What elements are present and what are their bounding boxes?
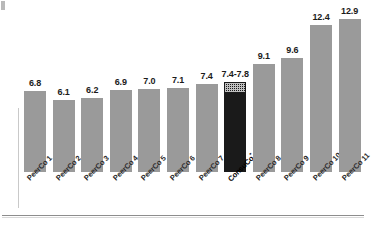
bar-group: 9.1 [253,0,275,172]
bar-group: 9.6 [281,0,303,172]
bar-peerco[interactable] [310,25,332,172]
bar-group: 7.0 [138,0,160,172]
bar-group: 6.9 [110,0,132,172]
bar-peerco[interactable] [339,19,361,172]
bar-group: 12.9 [339,0,361,172]
bar-group: 7.4-7.8 [224,0,246,172]
bar-peerco[interactable] [281,58,303,172]
bar-group: 12.4 [310,0,332,172]
range-stipple-cap [225,83,245,92]
bar-group: 6.8 [24,0,46,172]
bar-value-label: 12.9 [327,6,373,16]
bar-chart-plot-area: 6.8PeerCo 16.1PeerCo 26.2PeerCo 36.9Peer… [19,0,363,172]
bar-value-label: 9.6 [269,45,315,55]
bar-group: 7.4 [196,0,218,172]
bar-group: 7.1 [167,0,189,172]
plot-bottom-rule-secondary [2,217,364,218]
plot-bottom-rule [2,215,364,216]
bar-peerco[interactable] [253,64,275,172]
corner-mark [1,1,5,10]
